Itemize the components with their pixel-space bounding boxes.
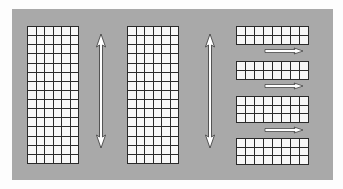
grid-cell: [171, 146, 180, 155]
grid-cell: [282, 71, 291, 80]
grid-cell: [282, 62, 291, 71]
grid-cell: [45, 155, 54, 164]
grid-cell: [145, 64, 154, 73]
grid-cell: [162, 100, 171, 109]
grid-cell: [37, 36, 46, 45]
grid-cell: [54, 146, 63, 155]
grid-cell: [37, 137, 46, 146]
grid-cell: [62, 146, 71, 155]
grid-cell: [291, 148, 300, 157]
grid-cell: [62, 73, 71, 82]
grid-cell: [273, 97, 282, 106]
grid-cell: [300, 148, 309, 157]
grid-cell: [37, 118, 46, 127]
grid-cell: [255, 62, 264, 71]
grid-cell: [145, 73, 154, 82]
grid-cell: [54, 36, 63, 45]
arrow-v-1-icon: [96, 34, 106, 148]
grid-cell: [154, 146, 163, 155]
grid-cell: [300, 36, 309, 45]
grid-cell: [37, 27, 46, 36]
grid-cell: [71, 45, 80, 54]
grid-cell: [145, 155, 154, 164]
grid-cell: [171, 64, 180, 73]
grid-cell: [128, 82, 137, 91]
grid-cell: [154, 91, 163, 100]
grid-cell: [28, 91, 37, 100]
grid-cell: [291, 71, 300, 80]
arrow-h-3-icon: [265, 126, 303, 134]
grid-cell: [128, 36, 137, 45]
grid-cell: [255, 114, 264, 123]
arrow-h-2-icon: [265, 82, 303, 90]
grid-cell: [300, 106, 309, 115]
grid-cell: [137, 137, 146, 146]
grid-cell: [137, 109, 146, 118]
arrow-v-2-icon: [205, 34, 215, 148]
grid-cell: [291, 97, 300, 106]
grid-cell: [54, 82, 63, 91]
grid-cell: [62, 100, 71, 109]
grid-cell: [28, 36, 37, 45]
grid-cell: [45, 137, 54, 146]
grid-cell: [137, 155, 146, 164]
grid-cell: [171, 45, 180, 54]
grid-cell: [37, 127, 46, 136]
grid-cell: [291, 139, 300, 148]
grid-cell: [28, 100, 37, 109]
grid-cell: [145, 36, 154, 45]
grid-cell: [154, 118, 163, 127]
grid-cell: [62, 137, 71, 146]
grid-cell: [71, 118, 80, 127]
grid-cell: [145, 82, 154, 91]
grid-cell: [300, 156, 309, 165]
grid-cell: [28, 155, 37, 164]
grid-cell: [45, 36, 54, 45]
grid-cell: [137, 27, 146, 36]
grid-cell: [37, 54, 46, 63]
grid-cell: [137, 64, 146, 73]
grid-cell: [237, 106, 246, 115]
grid-cell: [137, 82, 146, 91]
grid-cell: [28, 109, 37, 118]
grid-cell: [28, 82, 37, 91]
grid-cell: [71, 91, 80, 100]
grid-cell: [162, 64, 171, 73]
grid-cell: [54, 73, 63, 82]
grid-cell: [28, 137, 37, 146]
grid-cell: [28, 27, 37, 36]
grid-cell: [71, 82, 80, 91]
grid-cell: [154, 73, 163, 82]
grid-cell: [154, 155, 163, 164]
grid-cell: [54, 155, 63, 164]
grid-cell: [45, 27, 54, 36]
grid-cell: [28, 146, 37, 155]
grid-cell: [128, 137, 137, 146]
grid-cell: [246, 148, 255, 157]
grid-cell: [282, 106, 291, 115]
grid-cell: [71, 73, 80, 82]
grid-cell: [255, 139, 264, 148]
grid-cell: [62, 82, 71, 91]
grid-cell: [273, 27, 282, 36]
grid-cell: [154, 45, 163, 54]
grid-cell: [37, 146, 46, 155]
arrow-h-1-icon: [265, 47, 303, 55]
grid-cell: [71, 54, 80, 63]
grid-cell: [255, 27, 264, 36]
grid-cell: [137, 36, 146, 45]
grid-cell: [300, 114, 309, 123]
grid-cell: [128, 109, 137, 118]
grid-cell: [62, 45, 71, 54]
grid-cell: [162, 54, 171, 63]
grid-cell: [54, 64, 63, 73]
grid-cell: [282, 148, 291, 157]
grid-cell: [128, 155, 137, 164]
grid-cell: [54, 100, 63, 109]
grid-cell: [37, 73, 46, 82]
grid-cell: [246, 97, 255, 106]
grid-cell: [62, 27, 71, 36]
grid-cell: [145, 91, 154, 100]
grid-cell: [171, 27, 180, 36]
grid-cell: [128, 146, 137, 155]
